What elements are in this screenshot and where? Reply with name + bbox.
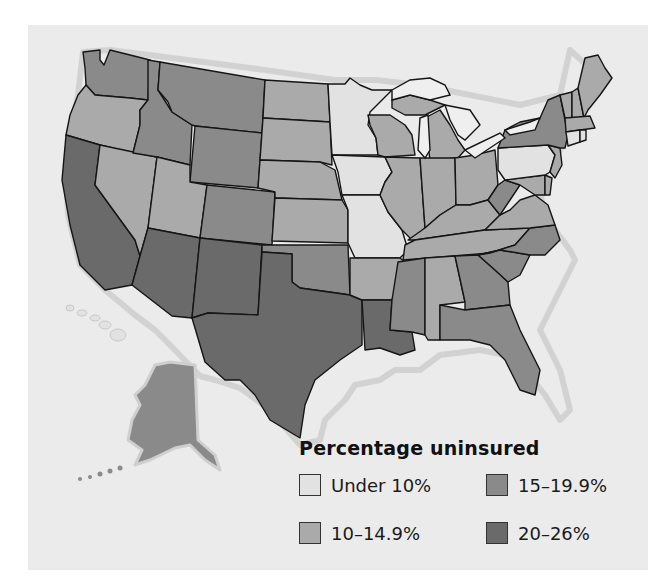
- legend-item-under-10: Under 10%: [299, 474, 431, 496]
- legend-label: 20–26%: [518, 523, 590, 544]
- state-hi[interactable]: [66, 305, 126, 341]
- legend-item-20-26: 20–26%: [486, 522, 590, 544]
- aleutian-islands: [78, 466, 123, 482]
- state-ct[interactable]: [566, 130, 580, 146]
- legend-label: 15–19.9%: [518, 475, 607, 496]
- state-nd[interactable]: [263, 80, 330, 122]
- legend-label: 10–14.9%: [331, 523, 420, 544]
- lake-michigan: [418, 115, 430, 158]
- swatch-10-14: [299, 522, 321, 544]
- legend-item-10-14: 10–14.9%: [299, 522, 420, 544]
- legend-label: Under 10%: [331, 475, 431, 496]
- state-sd[interactable]: [260, 118, 332, 165]
- legend-title: Percentage uninsured: [299, 437, 540, 459]
- swatch-15-19: [486, 474, 508, 496]
- state-wy[interactable]: [190, 126, 262, 188]
- swatch-under-10: [299, 474, 321, 496]
- state-me[interactable]: [578, 55, 612, 118]
- state-pa[interactable]: [498, 145, 555, 180]
- legend: Percentage uninsured Under 10% 10–14.9% …: [297, 437, 637, 567]
- state-nm[interactable]: [192, 238, 262, 318]
- state-de[interactable]: [545, 175, 552, 195]
- state-ri[interactable]: [580, 130, 586, 142]
- legend-item-15-19: 15–19.9%: [486, 474, 607, 496]
- state-ks[interactable]: [272, 198, 348, 243]
- swatch-20-26: [486, 522, 508, 544]
- state-co[interactable]: [200, 185, 275, 245]
